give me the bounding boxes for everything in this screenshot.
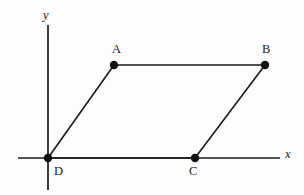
edge-bc bbox=[195, 65, 265, 158]
vertex-dot-c bbox=[191, 154, 199, 162]
edge-da bbox=[48, 65, 114, 158]
vertex-label-c: C bbox=[189, 165, 197, 178]
vertex-dot-b bbox=[261, 61, 269, 69]
x-axis-label: x bbox=[285, 148, 291, 161]
figure-canvas bbox=[0, 0, 304, 195]
y-axis-label: y bbox=[43, 9, 49, 22]
vertex-dot-a bbox=[110, 61, 118, 69]
vertex-dot-d bbox=[44, 154, 52, 162]
vertex-label-a: A bbox=[112, 43, 121, 56]
vertex-label-b: B bbox=[262, 43, 270, 56]
geometry-figure: A B C D y x bbox=[0, 0, 304, 195]
vertex-label-d: D bbox=[54, 165, 63, 178]
